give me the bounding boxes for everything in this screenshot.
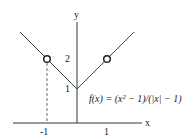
tick-x-1: 1 xyxy=(104,126,109,137)
left-branch-lower xyxy=(50,62,77,89)
hole-marker-left xyxy=(44,56,51,63)
left-branch-upper xyxy=(20,32,44,56)
right-branch-upper xyxy=(110,32,134,56)
tick-y-2: 2 xyxy=(65,53,70,64)
tick-x-neg1: -1 xyxy=(40,126,48,137)
hole-marker-right xyxy=(104,56,111,63)
tick-y-1: 1 xyxy=(65,83,70,94)
right-branch-lower xyxy=(77,62,104,89)
function-graph: y x 2 1 -1 1 f(x) = (x² − 1)/(|x| − 1) xyxy=(0,0,196,139)
function-label: f(x) = (x² − 1)/(|x| − 1) xyxy=(89,93,182,105)
y-axis-label: y xyxy=(74,9,79,20)
x-axis-label: x xyxy=(145,117,150,128)
